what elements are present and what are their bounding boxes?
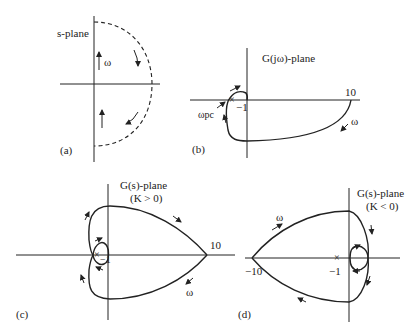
panel-a: s-plane ω (a) xyxy=(57,16,160,162)
omega-label: ω xyxy=(186,286,193,298)
panel-tag-c: (c) xyxy=(16,308,29,321)
cross-marker: × xyxy=(334,252,340,263)
arrow-icon xyxy=(272,224,282,230)
arrow-icon xyxy=(230,86,240,91)
panel-b: × −1 10 G(jω)-plane ω ωpc (b) xyxy=(190,48,360,158)
panel-tag-b: (b) xyxy=(192,143,205,156)
cross-marker: × xyxy=(94,249,100,260)
omega-label: ω xyxy=(351,115,358,127)
panel-tag-a: (a) xyxy=(60,144,73,157)
s-plane-label: s-plane xyxy=(57,27,89,39)
panel-d: × −1 −10 G(s)-plane (K < 0) ω (d) xyxy=(238,187,404,322)
arrow-icon xyxy=(371,225,372,234)
clockwise-arrow-icon xyxy=(126,112,138,124)
clockwise-arrow-icon xyxy=(134,50,138,66)
omega-label: ω xyxy=(276,211,283,223)
omega-label: ω xyxy=(104,56,111,68)
arrow-icon xyxy=(224,115,226,123)
arrow-icon xyxy=(96,267,103,270)
k-condition: (K > 0) xyxy=(130,192,163,205)
panel-c: × −1 10 G(s)-plane (K > 0) ω (c) xyxy=(16,179,235,321)
g-jw-plane-label: G(jω)-plane xyxy=(262,52,315,65)
arrow-icon xyxy=(186,278,193,284)
point-minus-1: −1 xyxy=(329,265,341,277)
g-s-plane-label: G(s)-plane xyxy=(120,179,167,192)
nyquist-curve xyxy=(226,92,351,141)
point-10: 10 xyxy=(345,86,357,98)
nyquist-figure: s-plane ω (a) × −1 10 G(jω)-plane ω ωpc … xyxy=(0,0,417,332)
panel-tag-d: (d) xyxy=(238,308,251,321)
point-10: 10 xyxy=(210,239,222,251)
arrow-icon xyxy=(81,275,84,283)
nyquist-curve-outer xyxy=(252,211,368,302)
g-s-plane-label: G(s)-plane xyxy=(357,187,404,200)
point-minus-1: −1 xyxy=(236,101,248,113)
arrow-icon xyxy=(173,216,181,222)
arrow-icon xyxy=(95,238,102,241)
arrow-icon xyxy=(341,124,348,131)
cross-marker: × xyxy=(229,94,235,105)
point-minus-10: −10 xyxy=(245,265,263,277)
omega-pc-label: ωpc xyxy=(198,109,215,120)
arrow-icon xyxy=(298,298,306,302)
k-condition: (K < 0) xyxy=(366,200,399,213)
point-minus-1: −1 xyxy=(100,254,111,265)
arrow-icon xyxy=(217,102,225,108)
arrow-icon xyxy=(85,212,89,220)
